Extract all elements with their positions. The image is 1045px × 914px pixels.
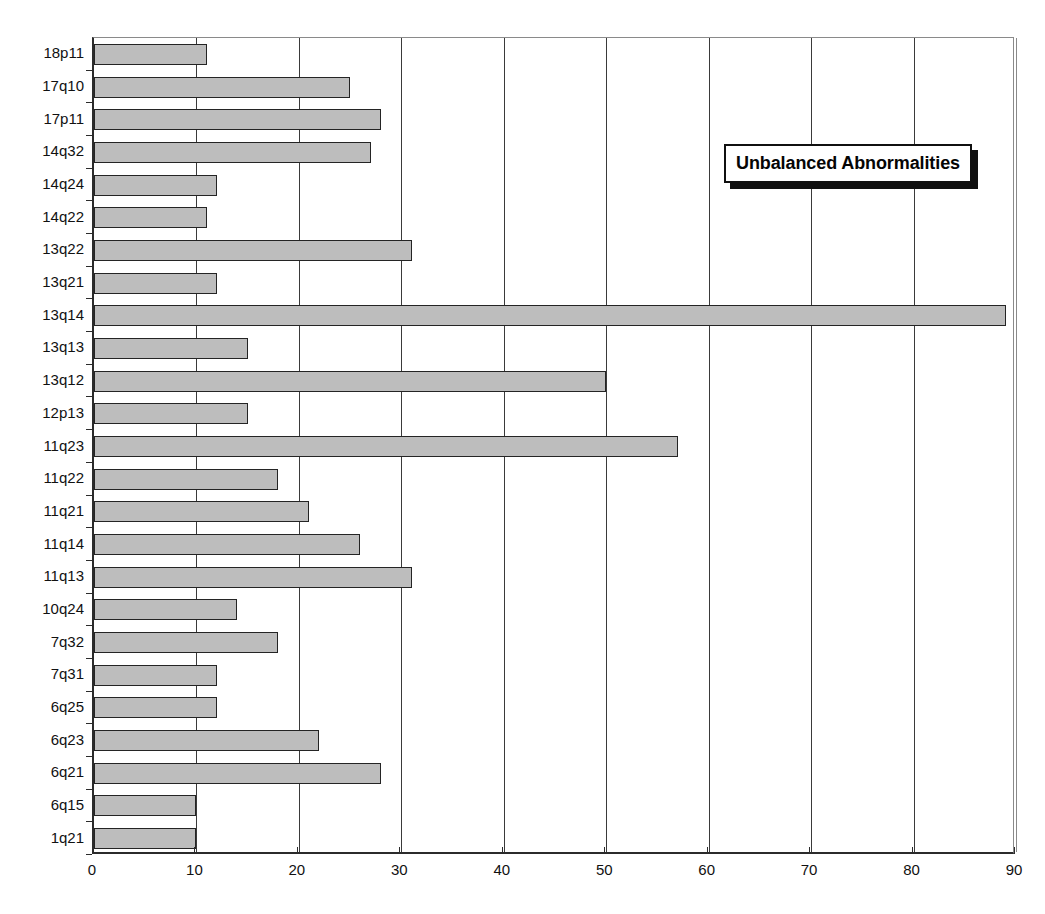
y-tick-14q22: [86, 233, 92, 234]
y-label-7q31: 7q31: [0, 666, 84, 681]
y-label-11q14: 11q14: [0, 536, 84, 551]
y-label-10q24: 10q24: [0, 601, 84, 616]
y-tick-6q21: [86, 789, 92, 790]
x-tick-80: [912, 847, 913, 854]
y-label-17p11: 17p11: [0, 111, 84, 126]
y-tick-11q23: [86, 462, 92, 463]
y-label-13q22: 13q22: [0, 241, 84, 256]
y-tick-6q23: [86, 756, 92, 757]
x-tick-0: [92, 847, 93, 854]
x-tick-label-80: 80: [903, 862, 920, 877]
y-tick-13q14: [86, 331, 92, 332]
x-tick-label-30: 30: [391, 862, 408, 877]
y-label-6q25: 6q25: [0, 699, 84, 714]
y-label-17q10: 17q10: [0, 78, 84, 93]
y-label-13q14: 13q14: [0, 307, 84, 322]
y-tick-12p13: [86, 429, 92, 430]
y-tick-14q24: [86, 200, 92, 201]
y-label-6q21: 6q21: [0, 764, 84, 779]
y-tick-10q24: [86, 625, 92, 626]
y-label-11q22: 11q22: [0, 470, 84, 485]
x-tick-label-50: 50: [596, 862, 613, 877]
x-tick-30: [399, 847, 400, 854]
legend: Unbalanced Abnormalities: [724, 144, 972, 183]
x-tick-60: [707, 847, 708, 854]
y-tick-11q21: [86, 527, 92, 528]
y-tick-6q25: [86, 723, 92, 724]
y-label-12p13: 12p13: [0, 405, 84, 420]
y-tick-17q10: [86, 102, 92, 103]
y-tick-14q32: [86, 168, 92, 169]
x-tick-label-10: 10: [186, 862, 203, 877]
y-tick-17p11: [86, 135, 92, 136]
bar-chart: 18p1117q1017p1114q3214q2414q2213q2213q21…: [0, 0, 1045, 914]
y-label-1q21: 1q21: [0, 830, 84, 845]
x-tick-label-40: 40: [493, 862, 510, 877]
y-tick-13q13: [86, 364, 92, 365]
y-label-13q12: 13q12: [0, 372, 84, 387]
x-tick-label-60: 60: [698, 862, 715, 877]
y-tick-11q14: [86, 560, 92, 561]
y-tick-18p11: [86, 70, 92, 71]
y-label-6q15: 6q15: [0, 797, 84, 812]
y-label-14q32: 14q32: [0, 143, 84, 158]
x-tick-10: [194, 847, 195, 854]
y-label-11q21: 11q21: [0, 503, 84, 518]
y-tick-13q21: [86, 298, 92, 299]
y-label-7q32: 7q32: [0, 634, 84, 649]
y-tick-13q22: [86, 266, 92, 267]
y-label-18p11: 18p11: [0, 45, 84, 60]
y-tick-13q12: [86, 396, 92, 397]
y-tick-11q22: [86, 495, 92, 496]
x-tick-50: [604, 847, 605, 854]
y-tick-7q31: [86, 691, 92, 692]
y-label-14q22: 14q22: [0, 209, 84, 224]
x-tick-label-70: 70: [801, 862, 818, 877]
x-tick-90: [1014, 847, 1015, 854]
y-label-14q24: 14q24: [0, 176, 84, 191]
x-tick-20: [297, 847, 298, 854]
y-label-11q13: 11q13: [0, 568, 84, 583]
y-label-11q23: 11q23: [0, 438, 84, 453]
x-tick-70: [809, 847, 810, 854]
y-label-13q21: 13q21: [0, 274, 84, 289]
x-axis: 0102030405060708090: [92, 854, 1014, 900]
y-label-6q23: 6q23: [0, 732, 84, 747]
x-tick-label-90: 90: [1006, 862, 1023, 877]
y-label-13q13: 13q13: [0, 339, 84, 354]
y-tick-7q32: [86, 658, 92, 659]
x-tick-label-0: 0: [88, 862, 96, 877]
x-tick-40: [502, 847, 503, 854]
y-tick-6q15: [86, 821, 92, 822]
y-tick-11q13: [86, 593, 92, 594]
legend-label: Unbalanced Abnormalities: [736, 154, 960, 172]
x-tick-label-20: 20: [289, 862, 306, 877]
